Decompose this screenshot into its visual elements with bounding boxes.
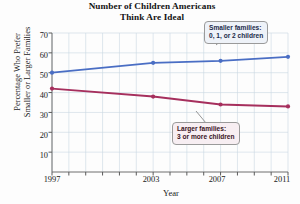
- callout-larger-families: Larger families: 3 or more children: [172, 122, 240, 145]
- smaller-families-point: [218, 59, 222, 63]
- smaller-families-point: [50, 71, 54, 75]
- larger-families-point: [218, 102, 222, 106]
- callout-smaller-line-1: Smaller families:: [209, 24, 263, 32]
- larger-families-point: [151, 94, 155, 98]
- chart-figure: Number of Children Americans Think Are I…: [0, 0, 300, 204]
- callout-leader-lines: [196, 35, 228, 123]
- larger-families-point: [50, 87, 54, 91]
- callout-smaller-families: Smaller families: 0, 1, or 2 children: [204, 21, 268, 44]
- smaller-families-point: [286, 55, 290, 59]
- callout-larger-line-2: 3 or more children: [177, 133, 235, 141]
- x-axis-ticks: [52, 172, 288, 176]
- grid-lines: [52, 33, 288, 172]
- callout-smaller-line-2: 0, 1, or 2 children: [209, 32, 263, 40]
- smaller-families-point: [151, 61, 155, 65]
- larger-families-point: [286, 104, 290, 108]
- callout-larger-line-1: Larger families:: [177, 125, 235, 133]
- y-axis-ticks: [49, 33, 53, 152]
